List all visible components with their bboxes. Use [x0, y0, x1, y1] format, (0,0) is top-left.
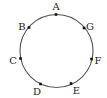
point-a: A [51, 1, 60, 16]
circle [20, 15, 93, 88]
point-b: B [18, 21, 30, 32]
point-label: A [51, 1, 60, 12]
point-marker [28, 26, 31, 29]
point-d: D [33, 83, 42, 97]
point-label: E [73, 85, 80, 96]
point-marker [39, 83, 42, 86]
point-marker [83, 27, 86, 30]
point-label: F [95, 55, 102, 66]
point-label: C [9, 55, 17, 66]
point-label: B [18, 21, 25, 32]
point-marker [19, 57, 22, 60]
point-marker [90, 58, 93, 61]
point-marker [55, 13, 58, 16]
point-g: G [83, 21, 94, 32]
diagram-canvas: ABCDEFG [0, 0, 107, 98]
point-f: F [90, 55, 101, 66]
points-layer: ABCDEFG [9, 1, 101, 98]
point-label: G [86, 21, 94, 32]
point-e: E [70, 82, 80, 96]
point-label: D [33, 86, 41, 97]
circle-diagram: ABCDEFG [0, 0, 107, 98]
